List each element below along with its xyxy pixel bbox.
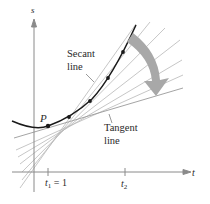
secant-point xyxy=(121,50,125,54)
t1-label: t1 = 1 xyxy=(45,177,67,190)
secant-lines xyxy=(16,22,183,188)
secant-point xyxy=(88,99,92,103)
s-axis-label: s xyxy=(31,5,35,15)
point-p-label: P xyxy=(39,112,47,124)
secant-point xyxy=(106,76,110,80)
point-p xyxy=(46,124,50,128)
tangent-label-line2: line xyxy=(104,135,120,146)
rotation-arrow-icon xyxy=(127,33,169,96)
secant-point xyxy=(67,115,71,119)
t-axis-label: t xyxy=(192,167,195,178)
secant-label-line2: line xyxy=(67,61,83,72)
tangent-label-line1: Tangent xyxy=(104,122,138,133)
s-axis-arrow-icon xyxy=(32,19,37,27)
t2-label: t2 xyxy=(121,178,128,191)
t-axis-arrow-icon xyxy=(183,170,191,175)
secant-leader xyxy=(86,74,94,82)
secant-tangent-diagram: s t P Secant line Tangent line t1 = 1 t2 xyxy=(0,0,210,204)
axes xyxy=(12,19,191,192)
secant-label-line1: Secant xyxy=(67,48,95,59)
